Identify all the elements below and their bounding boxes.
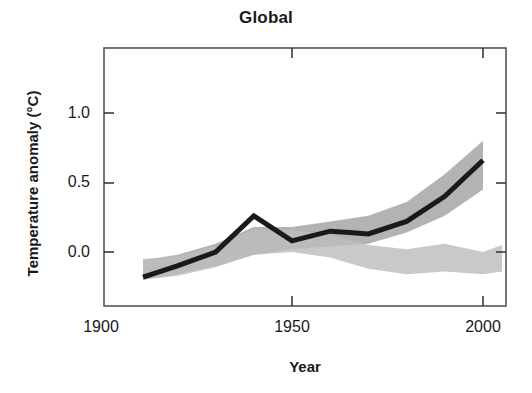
chart-figure: Global Temperature anomaly (°C) Year 1.0… (0, 0, 532, 393)
band-natural-only (143, 230, 502, 280)
plot-area (0, 0, 532, 393)
